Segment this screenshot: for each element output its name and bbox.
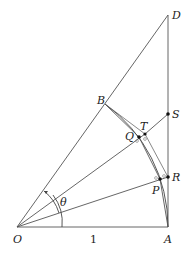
label-radius: 1 bbox=[90, 233, 97, 246]
label-Q: Q bbox=[125, 130, 134, 143]
label-T: T bbox=[140, 120, 149, 133]
segment-OR bbox=[17, 177, 168, 227]
label-A: A bbox=[163, 233, 172, 246]
geometry-diagram: D B S T Q R P θ O 1 A bbox=[0, 0, 191, 255]
right-angle-mark-P bbox=[155, 177, 158, 180]
right-angle-mark-T bbox=[144, 138, 147, 141]
label-P: P bbox=[151, 184, 160, 197]
point-R bbox=[166, 175, 170, 179]
segment-OT bbox=[17, 134, 145, 227]
segment-TS bbox=[145, 114, 168, 134]
label-S: S bbox=[172, 108, 180, 121]
label-R: R bbox=[171, 171, 180, 184]
point-Q bbox=[137, 135, 141, 139]
label-O: O bbox=[13, 233, 22, 246]
label-theta: θ bbox=[60, 196, 67, 209]
right-angle-mark-R bbox=[163, 175, 166, 178]
point-S bbox=[166, 112, 170, 116]
label-B: B bbox=[96, 94, 105, 107]
point-P bbox=[158, 177, 162, 181]
label-D: D bbox=[171, 9, 181, 22]
